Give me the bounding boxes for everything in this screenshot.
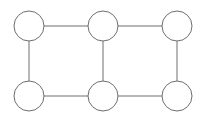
node-n6 (162, 81, 192, 111)
graph-canvas (0, 0, 207, 120)
node-n1 (14, 11, 44, 41)
node-n3 (162, 11, 192, 41)
node-n4 (14, 81, 44, 111)
node-n2 (88, 11, 118, 41)
node-n5 (88, 81, 118, 111)
graph-diagram (0, 0, 207, 120)
